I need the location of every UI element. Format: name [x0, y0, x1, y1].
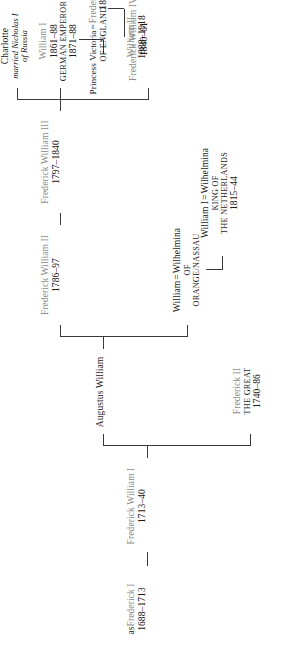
node-frederick-iii-dates: 1888	[98, 0, 109, 24]
frederick-william-iii-dates: 1797–1840	[51, 110, 62, 214]
frederick-william-ii-name: Frederick William II	[40, 224, 51, 326]
frederick-william-iii-name: Frederick William III	[40, 110, 51, 214]
william-ii-name: William II	[126, 0, 137, 77]
node-william-wilhelmina: William=Wilhelmina of Orange/Nassau	[172, 214, 201, 326]
connector-to-charlotte	[17, 88, 18, 100]
frederick-william-i-name: Frederick William I	[126, 458, 137, 554]
connector-to-frederick-william-ii	[60, 325, 61, 337]
frederick-ii-epithet: The Great	[243, 347, 252, 435]
node-frederick-william-ii: Frederick William II 1786–97	[40, 224, 61, 326]
frederick-i-prefix: as	[126, 626, 136, 634]
node-william-ii: William II 1888–1918	[126, 0, 147, 77]
connector-fwii-stem	[60, 213, 61, 225]
connector-augustus-sibling-bar	[60, 336, 187, 337]
node-augustus-william: Augustus William	[95, 349, 106, 435]
charlotte-note-2: of Russia	[20, 3, 30, 89]
william-i-netherlands-right: Wilhelmina	[200, 148, 210, 193]
connector-fwiii-stem	[60, 100, 61, 111]
frederick-iii-name: Frederick III	[88, 0, 98, 23]
frederick-i-dates: 1688–1713	[137, 566, 148, 652]
william-i-german-title-dates: 1871–88	[68, 0, 79, 89]
node-frederick-william-i: Frederick William I 1713–40	[126, 458, 147, 554]
connector-fi-to-fwi	[147, 552, 148, 566]
william-i-german-dates: 1861–88	[49, 0, 60, 89]
node-frederick-ii: Frederick II The Great 1740–86	[232, 347, 262, 435]
marriage-sign: =	[200, 193, 211, 200]
william-i-netherlands-dates: 1815–44	[229, 129, 240, 257]
william-ii-dates: 1888–1918	[137, 0, 148, 77]
augustus-william-name: Augustus William	[95, 349, 106, 435]
connector-to-william-i-german	[60, 88, 61, 100]
node-william-i-netherlands: William I=Wilhelmina King of the Netherl…	[200, 129, 240, 257]
william-i-german-name: William I	[38, 0, 49, 89]
frederick-william-ii-dates: 1786–97	[51, 224, 62, 326]
frederick-ii-dates: 1740–86	[252, 347, 263, 435]
william-wilhelmina-right: Wilhelmina	[172, 228, 182, 273]
connector-to-william-i-netherlands	[222, 256, 223, 270]
william-wilhelmina-left: William	[172, 281, 182, 312]
connector-to-frederick-ii	[250, 434, 251, 446]
node-charlotte: Charlotte married Nicholas I of Russia	[0, 3, 30, 89]
connector-to-william-ii	[124, 9, 125, 37]
connector-to-frederick-william-iv	[148, 88, 149, 100]
victoria-name: Princess Victoria	[88, 30, 98, 94]
connector-to-augustus-william	[103, 434, 104, 446]
node-frederick-william-iii: Frederick William III 1797–1840	[40, 110, 61, 214]
william-i-netherlands-title1: King of	[211, 129, 220, 257]
william-i-german-title: German Emperor	[59, 0, 68, 89]
family-tree-canvas: asFrederick I 1688–1713 Frederick Willia…	[0, 0, 292, 654]
frederick-william-i-dates: 1713–40	[137, 458, 148, 554]
node-frederick-i: asFrederick I 1688–1713	[126, 566, 147, 652]
connector-fwiii-children-bar	[17, 99, 148, 100]
connector-fwi-sibling-bar	[103, 445, 250, 446]
william-wilhelmina-of: of	[183, 214, 192, 326]
william-i-netherlands-title2: the Netherlands	[220, 129, 229, 257]
frederick-i-name: Frederick I	[126, 583, 136, 626]
connector-augustus-stem	[103, 337, 104, 349]
marriage-sign: =	[172, 273, 183, 280]
frederick-iii-dates: 1888	[98, 0, 109, 24]
frederick-ii-name: Frederick II	[232, 347, 243, 435]
william-i-netherlands-left: William I	[200, 201, 210, 238]
connector-to-william-wilhelmina	[187, 325, 188, 337]
connector-frederick-iii-down	[108, 8, 124, 9]
connector-william-wilhelmina-stem	[206, 269, 222, 270]
marriage-sign: =	[88, 23, 98, 30]
node-william-i-german-emperor: William I 1861–88 German Emperor 1871–88	[38, 0, 79, 89]
connector-fwi-stem	[147, 446, 148, 458]
